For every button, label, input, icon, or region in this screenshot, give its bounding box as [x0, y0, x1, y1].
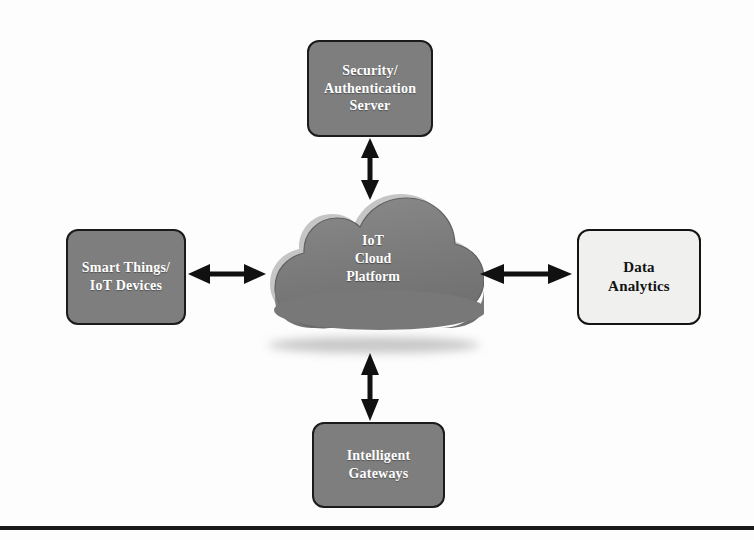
double-arrow-horizontal-icon [480, 262, 572, 286]
double-arrow-vertical-icon [358, 353, 382, 421]
node-smart-things-iot-devices[interactable]: Smart Things/ IoT Devices [66, 229, 186, 325]
connector-security-to-cloud[interactable] [358, 138, 382, 200]
node-intelligent-gateways[interactable]: Intelligent Gateways [312, 422, 445, 508]
diagram-canvas: Security/ Authentication Server Smart Th… [0, 0, 754, 540]
node-data-analytics[interactable]: Data Analytics [577, 229, 701, 325]
node-security-authentication-server[interactable]: Security/ Authentication Server [307, 40, 433, 137]
footer-divider-rule [0, 526, 754, 530]
connector-cloud-to-data-analytics[interactable] [480, 262, 572, 286]
cloud-shape-icon [262, 192, 484, 332]
cloud-drop-shadow [268, 337, 480, 353]
double-arrow-horizontal-icon [188, 262, 266, 286]
connector-cloud-to-gateways[interactable] [358, 353, 382, 421]
double-arrow-vertical-icon [358, 138, 382, 200]
connector-smart-things-to-cloud[interactable] [188, 262, 266, 286]
node-iot-cloud-platform[interactable]: IoT Cloud Platform [262, 192, 484, 332]
